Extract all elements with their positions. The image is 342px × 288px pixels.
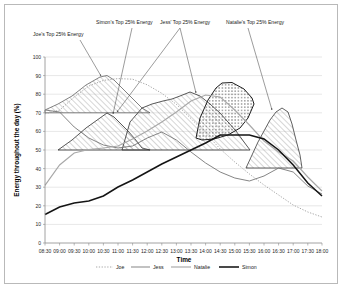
y-tick-label: 20	[35, 203, 41, 209]
chart-canvas: 100 90 80 70 60 50 40 30 20 10 0 08:30 0…	[0, 0, 342, 288]
x-tick-label: 15:00	[229, 248, 242, 254]
legend-label-simon: Simon	[242, 264, 257, 270]
x-tick-label: 12:30	[156, 248, 169, 254]
legend-item-jess[interactable]: Jess	[131, 264, 164, 270]
annotation-label-jess: Jess' Top 25% Energy	[160, 19, 211, 25]
chart-figure: 100 90 80 70 60 50 40 30 20 10 0 08:30 0…	[0, 0, 342, 288]
legend-label-natalie: Natalie	[194, 264, 210, 270]
annotation-label-joe: Joe's Top 25% Energy	[33, 31, 84, 37]
annotation-label-natalie: Natalie's Top 25% Energy	[226, 19, 285, 25]
y-tick-label: 90	[35, 73, 41, 79]
y-tick-label: 0	[38, 240, 41, 246]
x-tick-label: 09:30	[68, 248, 81, 254]
leader-joe	[80, 40, 101, 76]
x-tick-label: 10:30	[97, 248, 110, 254]
x-axis-tick-labels: 08:30 09:00 09:30 10:00 10:30 11:00 11:3…	[39, 248, 329, 254]
legend-item-joe[interactable]: Joe	[96, 264, 124, 270]
x-tick-label: 16:30	[272, 248, 285, 254]
x-tick-label: 16:00	[258, 248, 271, 254]
x-tick-label: 18:00	[316, 248, 329, 254]
x-tick-label: 10:00	[83, 248, 96, 254]
y-tick-label: 100	[33, 54, 42, 60]
x-tick-label: 13:00	[170, 248, 183, 254]
x-tick-label: 11:30	[127, 248, 139, 254]
y-tick-label: 60	[35, 128, 41, 134]
leader-jess2	[180, 28, 196, 93]
y-tick-label: 80	[35, 91, 41, 97]
x-tick-label: 13:30	[185, 248, 198, 254]
x-axis-title: Time	[177, 256, 192, 263]
y-axis-title: Energy throughout the day (%)	[13, 103, 21, 196]
y-tick-label: 50	[35, 147, 41, 153]
x-tick-label: 11:00	[112, 248, 124, 254]
y-tick-label: 10	[35, 221, 41, 227]
y-axis-tick-labels: 100 90 80 70 60 50 40 30 20 10 0	[33, 54, 42, 246]
legend-item-simon[interactable]: Simon	[219, 264, 257, 270]
y-tick-label: 40	[35, 166, 41, 172]
x-tick-label: 08:30	[39, 248, 52, 254]
y-tick-label: 30	[35, 184, 41, 190]
x-tick-label: 17:30	[302, 248, 315, 254]
legend-label-joe: Joe	[116, 264, 124, 270]
chart-legend: Joe Jess Natalie Simon	[96, 264, 257, 270]
annotation-label-simon: Simon's Top 25% Energy	[96, 19, 153, 25]
x-tick-label: 12:00	[141, 248, 154, 254]
region-natalie-late-hump	[246, 108, 302, 168]
x-tick-label: 09:00	[53, 248, 66, 254]
y-tick-label: 70	[35, 110, 41, 116]
legend-item-natalie[interactable]: Natalie	[171, 264, 210, 270]
x-tick-label: 15:30	[243, 248, 256, 254]
x-tick-label: 17:00	[287, 248, 300, 254]
legend-label-jess: Jess	[153, 264, 164, 270]
x-tick-label: 14:00	[199, 248, 212, 254]
x-tick-label: 14:30	[214, 248, 227, 254]
